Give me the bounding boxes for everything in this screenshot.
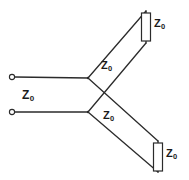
label-upper-branch-impedance: Z0 xyxy=(101,60,112,71)
label-upper-terminator-impedance-symbol: Z xyxy=(154,17,161,29)
label-upper-branch-impedance-subscript: 0 xyxy=(108,64,112,73)
junction-lower-node xyxy=(87,111,89,113)
label-upper-branch-impedance-symbol: Z xyxy=(101,59,108,71)
terminator-lower-resistor-icon xyxy=(154,143,163,171)
label-lower-branch-impedance: Z0 xyxy=(103,110,114,121)
input-terminal-top-icon xyxy=(9,74,14,79)
label-upper-terminator-impedance-subscript: 0 xyxy=(161,22,165,31)
label-lower-branch-impedance-subscript: 0 xyxy=(110,114,114,123)
circuit-diagram: Z0 Z0 Z0 Z0 Z0 xyxy=(0,0,189,180)
label-input-impedance-subscript: 0 xyxy=(30,94,34,103)
label-input-impedance: Z0 xyxy=(22,89,34,101)
label-lower-terminator-impedance-subscript: 0 xyxy=(173,152,177,161)
upper-branch-wire-outer xyxy=(88,11,146,78)
lower-branch-group xyxy=(88,78,163,172)
lower-branch-wire-outer xyxy=(88,112,158,172)
label-lower-terminator-impedance-symbol: Z xyxy=(166,147,173,159)
lower-branch-wire-inner xyxy=(88,78,158,141)
label-upper-terminator-impedance: Z0 xyxy=(154,18,165,29)
junction-group xyxy=(87,77,89,113)
upper-branch-wire-inner xyxy=(88,43,146,112)
input-wire-top xyxy=(15,77,88,78)
label-lower-branch-impedance-symbol: Z xyxy=(103,109,110,121)
input-terminal-bottom-icon xyxy=(9,109,14,114)
junction-upper-node xyxy=(87,77,89,79)
label-input-impedance-symbol: Z xyxy=(22,88,29,102)
upper-branch-group xyxy=(88,11,151,112)
label-lower-terminator-impedance: Z0 xyxy=(166,148,177,159)
terminator-upper-resistor-icon xyxy=(142,13,151,41)
